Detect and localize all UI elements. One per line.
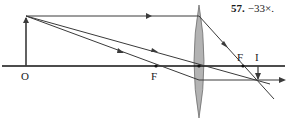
label-focal-left: F [151,70,157,82]
lens-ray-diagram: O F F I [0,0,291,120]
label-image-I: I [255,51,259,63]
ray-central [26,16,270,84]
focal-point-right [241,64,244,67]
converging-lens [194,5,204,118]
focal-point-left [154,64,157,67]
label-focal-right: F [237,51,243,63]
lens-center-point [197,64,200,67]
label-object-O: O [21,70,29,82]
